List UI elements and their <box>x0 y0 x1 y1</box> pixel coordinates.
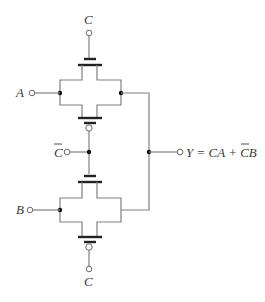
circuit-diagram: C A C Y = CA + CB <box>0 0 265 302</box>
inversion-bubble-icon <box>86 125 92 131</box>
terminal-circle-icon <box>177 149 183 155</box>
upper-gate-body <box>60 65 121 118</box>
top-control-terminal: C <box>84 12 93 58</box>
input-a-terminal: A <box>15 85 60 100</box>
terminal-circle-icon <box>86 266 92 272</box>
lower-transmission-gate <box>58 176 121 266</box>
bottom-control-label: C <box>84 274 93 289</box>
input-b-terminal: B <box>16 202 60 217</box>
terminal-circle-icon <box>64 149 70 155</box>
terminal-circle-icon <box>29 90 35 96</box>
middle-control-terminal: C <box>54 144 91 160</box>
bottom-control-terminal: C <box>84 266 93 289</box>
input-a-label: A <box>15 85 24 100</box>
output-label: Y = CA + CB <box>186 145 257 160</box>
input-b-label: B <box>16 202 24 217</box>
inversion-bubble-icon <box>86 244 92 250</box>
lower-gate-body <box>60 182 121 237</box>
upper-transmission-gate <box>58 59 123 174</box>
output-bus-wire <box>121 93 149 210</box>
top-control-label: C <box>84 12 93 27</box>
output-terminal: Y = CA + CB <box>147 144 257 160</box>
terminal-circle-icon <box>27 207 33 213</box>
junction-dot-icon <box>87 150 91 154</box>
middle-control-label: C <box>54 145 63 160</box>
terminal-circle-icon <box>86 30 92 36</box>
